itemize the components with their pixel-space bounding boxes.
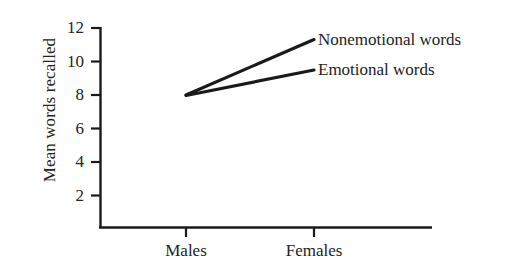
- y-tick-label-12: 12: [44, 19, 84, 36]
- interaction-line-chart: Mean words recalled 12 10 8 6 4 2 Males …: [0, 0, 523, 275]
- x-tick-label-males: Males: [116, 242, 256, 259]
- y-tick-label-10: 10: [44, 53, 84, 70]
- series-line-nonemotional-words: [186, 40, 314, 96]
- x-tick-label-females: Females: [244, 242, 384, 259]
- x-axis-ticks: [186, 228, 314, 237]
- y-tick-label-2: 2: [44, 187, 84, 204]
- y-tick-label-6: 6: [44, 120, 84, 137]
- y-axis-ticks: [91, 28, 100, 196]
- y-tick-label-4: 4: [44, 153, 84, 170]
- series-line-emotional-words: [186, 70, 314, 96]
- y-tick-label-8: 8: [44, 86, 84, 103]
- legend-label-nonemotional-words: Nonemotional words: [318, 31, 461, 48]
- legend-label-emotional-words: Emotional words: [318, 61, 435, 78]
